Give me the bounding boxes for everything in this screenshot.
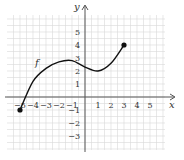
svg-text:4: 4 [75, 41, 80, 50]
svg-text:5: 5 [147, 101, 152, 110]
grid-lines [7, 15, 165, 150]
svg-text:−3: −3 [40, 101, 52, 110]
svg-text:−2: −2 [68, 119, 80, 128]
svg-text:−4: −4 [27, 101, 39, 110]
axes [5, 5, 175, 152]
y-axis-label: y [73, 1, 80, 12]
svg-text:2: 2 [108, 101, 113, 110]
function-graph: x y −5−4−3−2−11234554321−1−2−3 f [0, 0, 184, 160]
svg-text:5: 5 [75, 28, 80, 37]
function-label: f [34, 57, 41, 68]
svg-text:4: 4 [134, 101, 139, 110]
svg-text:1: 1 [75, 80, 80, 89]
endpoint-dot [17, 107, 22, 112]
endpoint-dot [121, 42, 126, 47]
svg-text:−2: −2 [53, 101, 65, 110]
svg-text:3: 3 [121, 101, 126, 110]
svg-text:−1: −1 [68, 106, 80, 115]
svg-text:−3: −3 [68, 132, 80, 141]
svg-text:2: 2 [75, 67, 80, 76]
svg-text:1: 1 [95, 101, 100, 110]
x-axis-label: x [169, 99, 175, 110]
